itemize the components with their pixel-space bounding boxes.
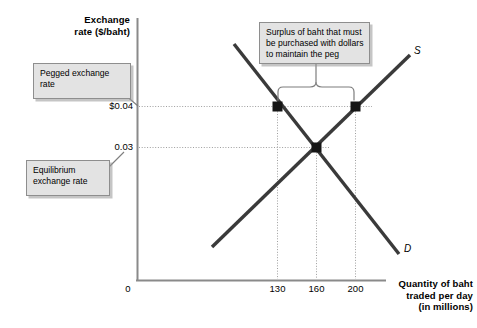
surplus-callout: Surplus of baht that must be purchased w… [259,22,370,64]
marker-quantity-demanded-at-peg [273,102,283,112]
equilibrium-rate-callout-line2: exchange rate [33,176,104,187]
x-axis-title-line1: Quantity of baht [381,278,473,290]
y-axis-title-line1: Exchange [38,14,130,26]
supply-curve [212,55,410,247]
x-axis-title: Quantity of baht traded per day (in mill… [381,278,473,313]
origin-label: 0 [116,283,140,294]
marker-equilibrium [312,143,322,153]
surplus-brace [278,64,354,100]
x-axis-title-line2: traded per day [381,290,473,302]
marker-quantity-supplied-at-peg [351,102,361,112]
demand-curve-label: D [404,243,411,254]
y-axis-title: Exchange rate ($/baht) [38,14,130,37]
pegged-rate-callout-line1: Pegged exchange [40,68,125,79]
x-tick-label-200: 200 [333,283,378,294]
equilibrium-rate-callout: Equilibrium exchange rate [26,160,110,196]
demand-curve [234,44,399,254]
data-point-markers [273,102,361,153]
y-tick-label-0-04: $0.04 [79,100,133,111]
surplus-callout-line3: to maintain the peg [266,49,364,60]
pegged-rate-callout: Pegged exchange rate [33,63,131,99]
surplus-callout-line2: be purchased with dollars [266,38,364,49]
equilibrium-rate-callout-line1: Equilibrium [33,165,104,176]
vertical-gridlines [278,106,356,279]
horizontal-gridlines [139,107,372,148]
pegged-rate-callout-line2: rate [40,79,125,90]
surplus-callout-line1: Surplus of baht that must [266,27,364,38]
y-tick-label-0-03: 0.03 [79,141,133,152]
exchange-rate-supply-demand-figure: Exchange rate ($/baht) Quantity of baht … [0,0,477,328]
equilibrium-rate-leader-line [108,152,124,168]
x-axis-title-line3: (in millions) [381,301,473,313]
y-axis-title-line2: rate ($/baht) [38,26,130,38]
supply-curve-label: S [414,45,421,56]
